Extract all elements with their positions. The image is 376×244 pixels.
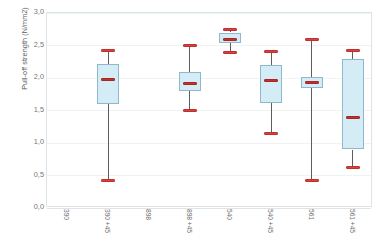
plot-area [46, 12, 372, 207]
y-tick-label: 1,5 [20, 106, 44, 113]
max-whisker-cap [223, 28, 237, 31]
x-tick-label: 540 +45 [250, 207, 290, 244]
min-whisker-cap [305, 179, 319, 182]
x-tick-label: 540 [209, 207, 249, 244]
x-tick-label-text: 540 [226, 209, 233, 220]
x-tick-label: 898 +45 [169, 207, 209, 244]
x-tick-label-text: 390 [63, 209, 70, 220]
y-tick-label: 2,5 [20, 41, 44, 48]
lower-whisker [108, 104, 109, 181]
min-whisker-cap [346, 166, 360, 169]
x-tick-label: 390 +45 [87, 207, 127, 244]
box-iqr [260, 65, 282, 103]
box-plot-column [333, 13, 373, 206]
min-whisker-cap [223, 51, 237, 54]
median-marker [264, 79, 278, 82]
box-iqr [342, 59, 364, 149]
min-whisker-cap [183, 109, 197, 112]
max-whisker-cap [264, 50, 278, 53]
box-plot-column [170, 13, 210, 206]
max-whisker-cap [346, 49, 360, 52]
y-axis-tick-labels: 0,00,51,01,52,02,53,0 [20, 0, 44, 244]
x-axis-tick-labels: 390390 +45898898 +45540540 +45561561 +45 [46, 207, 372, 244]
x-tick-label-text: 561 +45 [348, 209, 355, 233]
box-plot-column [292, 13, 332, 206]
y-tick-label: 1,0 [20, 138, 44, 145]
min-whisker-cap [264, 132, 278, 135]
median-marker [305, 81, 319, 84]
x-tick-label: 898 [128, 207, 168, 244]
median-marker [346, 116, 360, 119]
box-plot-column [47, 13, 87, 206]
box-plot-column [251, 13, 291, 206]
median-marker [101, 78, 115, 81]
x-tick-label-text: 540 +45 [267, 209, 274, 233]
lower-whisker [189, 91, 190, 111]
upper-whisker [189, 46, 190, 72]
x-tick-label: 561 [291, 207, 331, 244]
upper-whisker [108, 51, 109, 65]
box-plot-column [88, 13, 128, 206]
x-tick-label: 561 +45 [332, 207, 372, 244]
lower-whisker [311, 88, 312, 180]
box-plot-column [129, 13, 169, 206]
lower-whisker [271, 103, 272, 134]
upper-whisker [311, 39, 312, 77]
max-whisker-cap [101, 49, 115, 52]
x-tick-label-text: 898 [144, 209, 151, 220]
y-tick-label: 0,0 [20, 203, 44, 210]
y-tick-label: 3,0 [20, 8, 44, 15]
max-whisker-cap [183, 44, 197, 47]
x-tick-label: 390 [46, 207, 86, 244]
x-tick-label-text: 898 +45 [185, 209, 192, 233]
y-tick-label: 0,5 [20, 171, 44, 178]
max-whisker-cap [305, 38, 319, 41]
upper-whisker [271, 51, 272, 65]
box-plot-column [210, 13, 250, 206]
min-whisker-cap [101, 179, 115, 182]
x-tick-label-text: 561 [307, 209, 314, 220]
boxplot-chart: Pull-off strength (N/mm2) 0,00,51,01,52,… [0, 0, 376, 244]
y-tick-label: 2,0 [20, 73, 44, 80]
box-iqr [97, 64, 119, 104]
x-tick-label-text: 390 +45 [104, 209, 111, 233]
median-marker [223, 38, 237, 41]
median-marker [183, 82, 197, 85]
lower-whisker [352, 150, 353, 168]
